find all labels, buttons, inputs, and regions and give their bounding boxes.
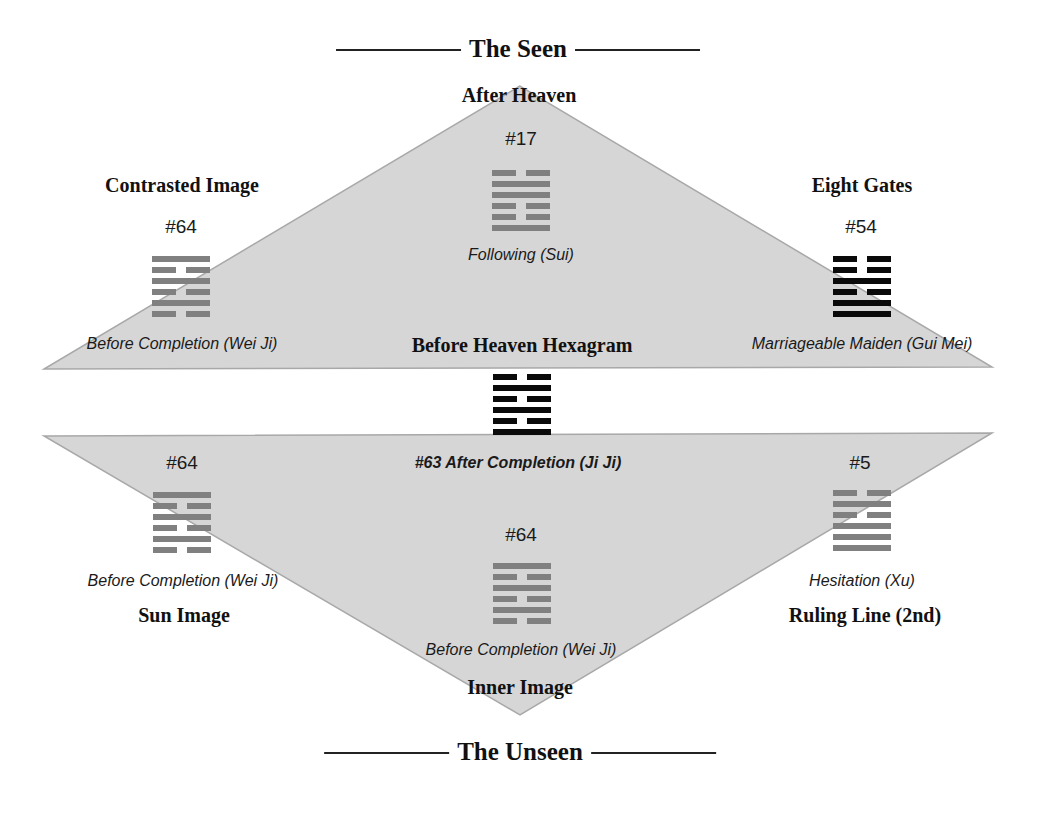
contrasted-image-label: Contrasted Image — [105, 174, 259, 197]
solid-line — [492, 181, 550, 187]
hexagram-54-icon — [833, 256, 891, 322]
solid-line — [833, 300, 891, 306]
title-text: The Seen — [469, 35, 567, 62]
before-heaven-label: Before Heaven Hexagram — [412, 334, 633, 357]
title-rule-right — [591, 752, 716, 754]
solid-line — [833, 311, 891, 317]
solid-line — [152, 278, 210, 284]
solid-line — [833, 501, 891, 507]
hexagram-64-sun-icon — [153, 492, 211, 558]
title-rule-left — [324, 752, 449, 754]
hexagram-64-contrasted-icon — [152, 256, 210, 322]
ruling-line-name: Hesitation (Xu) — [809, 572, 915, 590]
solid-line — [153, 492, 211, 498]
broken-line — [152, 267, 210, 273]
solid-line — [153, 536, 211, 542]
broken-line — [153, 547, 211, 553]
solid-line — [493, 607, 551, 613]
broken-line — [153, 503, 211, 509]
title-text: The Unseen — [457, 738, 583, 765]
broken-line — [493, 596, 551, 602]
broken-line — [833, 490, 891, 496]
broken-line — [833, 267, 891, 273]
solid-line — [833, 523, 891, 529]
eight-gates-name: Marriageable Maiden (Gui Mei) — [752, 335, 973, 353]
ruling-line-number: #5 — [849, 452, 870, 474]
inner-image-number: #64 — [505, 524, 537, 546]
after-heaven-name: Following (Sui) — [468, 246, 574, 264]
eight-gates-label: Eight Gates — [812, 174, 913, 197]
broken-line — [833, 256, 891, 262]
solid-line — [153, 514, 211, 520]
solid-line — [152, 256, 210, 262]
solid-line — [493, 429, 551, 435]
solid-line — [493, 385, 551, 391]
solid-line — [492, 225, 550, 231]
solid-line — [493, 563, 551, 569]
solid-line — [493, 407, 551, 413]
broken-line — [493, 574, 551, 580]
broken-line — [493, 374, 551, 380]
title-the-seen: The Seen — [328, 35, 708, 63]
broken-line — [493, 418, 551, 424]
eight-gates-number: #54 — [845, 216, 877, 238]
inner-image-label: Inner Image — [467, 676, 573, 699]
inner-image-name: Before Completion (Wei Ji) — [426, 641, 617, 659]
solid-line — [492, 192, 550, 198]
solid-line — [833, 545, 891, 551]
solid-line — [493, 585, 551, 591]
title-rule-right — [575, 49, 700, 51]
broken-line — [833, 512, 891, 518]
solid-line — [833, 534, 891, 540]
broken-line — [152, 311, 210, 317]
after-heaven-label: After Heaven — [462, 84, 577, 107]
broken-line — [833, 289, 891, 295]
broken-line — [152, 289, 210, 295]
solid-line — [833, 278, 891, 284]
hexagram-17-icon — [492, 170, 550, 236]
broken-line — [492, 203, 550, 209]
after-heaven-number: #17 — [505, 128, 537, 150]
broken-line — [153, 525, 211, 531]
broken-line — [492, 214, 550, 220]
hexagram-64-inner-icon — [493, 563, 551, 629]
ruling-line-label: Ruling Line (2nd) — [789, 604, 941, 627]
contrasted-image-name: Before Completion (Wei Ji) — [87, 335, 278, 353]
broken-line — [493, 618, 551, 624]
before-heaven-name: #63 After Completion (Ji Ji) — [415, 454, 622, 472]
sun-image-name: Before Completion (Wei Ji) — [88, 572, 279, 590]
hexagram-diagram: The Seen After Heaven #17 Following (Sui… — [0, 0, 1043, 820]
hexagram-5-icon — [833, 490, 891, 556]
broken-line — [493, 396, 551, 402]
sun-image-label: Sun Image — [138, 604, 230, 627]
sun-image-number: #64 — [166, 452, 198, 474]
solid-line — [152, 300, 210, 306]
contrasted-image-number: #64 — [165, 216, 197, 238]
title-rule-left — [336, 49, 461, 51]
hexagram-63-icon — [493, 374, 551, 440]
broken-line — [492, 170, 550, 176]
title-the-unseen: The Unseen — [316, 738, 724, 766]
